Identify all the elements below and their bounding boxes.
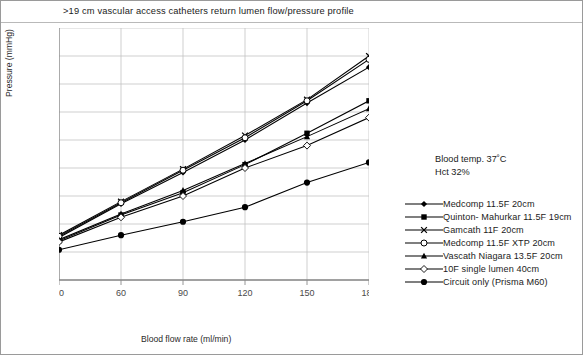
legend-label: Medcomp 11.5F XTP 20cm: [443, 238, 555, 248]
data-point-filled-diamond: [366, 64, 369, 70]
legend-label: Circuit only (Prisma M60): [443, 277, 548, 287]
legend-label: Gamcath 11F 20cm: [443, 225, 524, 235]
legend-marker-glyph: [421, 279, 427, 285]
chart-title: >19 cm vascular access catheters return …: [63, 6, 354, 16]
legend-label: Quinton- Mahurkar 11.5F 19cm: [443, 212, 571, 222]
data-point-open-circle: [180, 167, 186, 173]
legend-marker-cross-icon: [405, 224, 443, 236]
data-point-filled-square: [366, 98, 369, 103]
plot-area: 0255075100125150175200225306090120150180: [59, 28, 369, 309]
chart-canvas: 0255075100125150175200225306090120150180: [59, 28, 369, 309]
series-path: [59, 162, 369, 249]
data-point-open-diamond: [366, 114, 370, 121]
data-point-filled-circle: [366, 159, 369, 165]
legend-item: Vascath Niagara 13.5F 20cm: [405, 249, 581, 262]
legend-marker-open-circle-icon: [405, 237, 443, 249]
series-line: [59, 53, 369, 238]
chart-legend: Medcomp 11.5F 20cmQuinton- Mahurkar 11.5…: [405, 197, 581, 289]
data-point-filled-circle: [304, 179, 310, 185]
legend-marker-glyph: [421, 266, 428, 273]
legend-item: 10F single lumen 40cm: [405, 262, 581, 275]
hct-text: Hct 32%: [435, 166, 507, 179]
x-tick-label: 30: [59, 288, 64, 298]
chart-figure: >19 cm vascular access catheters return …: [0, 0, 583, 355]
legend-item: Gamcath 11F 20cm: [405, 223, 581, 236]
series-path: [59, 118, 369, 242]
x-tick-label: 120: [237, 288, 252, 298]
legend-label: Medcomp 11.5F 20cm: [443, 199, 535, 209]
blood-temp-text: Blood temp. 37˚C: [435, 153, 507, 166]
legend-label: 10F single lumen 40cm: [443, 264, 539, 274]
data-point-open-circle: [304, 98, 310, 104]
data-point-open-circle: [366, 56, 369, 62]
legend-marker-open-diamond-icon: [405, 263, 443, 275]
title-divider: [1, 22, 582, 23]
data-point-filled-circle: [242, 204, 248, 210]
data-point-open-circle: [242, 135, 248, 141]
x-axis-label: Blood flow rate (ml/min): [141, 334, 231, 344]
y-axis-label: Pressure (mmHg): [4, 3, 14, 123]
legend-marker-filled-diamond-icon: [405, 198, 443, 210]
data-point-filled-circle: [118, 232, 124, 238]
series-path: [59, 109, 369, 240]
legend-marker-glyph: [421, 240, 427, 246]
legend-marker-filled-square-icon: [405, 211, 443, 223]
data-point-filled-circle: [180, 219, 186, 225]
legend-marker-glyph: [421, 214, 426, 219]
legend-item: Quinton- Mahurkar 11.5F 19cm: [405, 210, 581, 223]
x-tick-label: 90: [178, 288, 188, 298]
x-tick-label: 150: [299, 288, 314, 298]
x-tick-label: 180: [361, 288, 369, 298]
legend-marker-filled-triangle-icon: [405, 250, 443, 262]
data-point-open-diamond: [304, 142, 311, 149]
legend-item: Medcomp 11.5F XTP 20cm: [405, 236, 581, 249]
legend-item: Medcomp 11.5F 20cm: [405, 197, 581, 210]
legend-label: Vascath Niagara 13.5F 20cm: [443, 251, 563, 261]
x-tick-label: 60: [116, 288, 126, 298]
legend-marker-glyph: [421, 200, 427, 206]
legend-marker-filled-circle-icon: [405, 276, 443, 288]
legend-item: Circuit only (Prisma M60): [405, 276, 581, 289]
series-line: [59, 159, 369, 253]
series-line: [59, 98, 369, 243]
data-point-open-circle: [118, 200, 124, 206]
conditions-block: Blood temp. 37˚C Hct 32%: [435, 153, 507, 179]
series-path: [59, 56, 369, 235]
series-line: [59, 114, 369, 245]
